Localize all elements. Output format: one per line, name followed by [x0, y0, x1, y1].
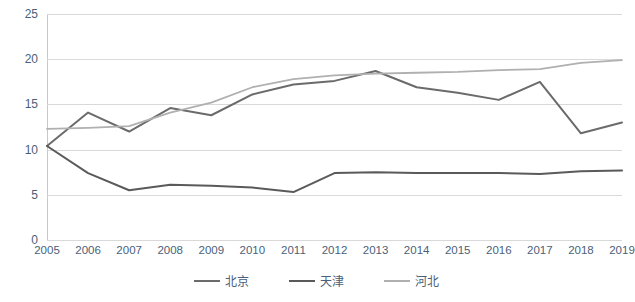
y-axis-tick-label: 0: [0, 233, 38, 247]
x-axis-tick-label: 2006: [75, 244, 101, 256]
x-axis-tick-label: 2017: [527, 244, 553, 256]
legend-item-1: 天津: [289, 272, 344, 289]
x-axis-tick-label: 2015: [445, 244, 471, 256]
x-axis-tick-label: 2019: [609, 244, 635, 256]
series-line: [47, 146, 622, 192]
x-axis-tick-label: 2005: [34, 244, 60, 256]
plot-area: [47, 14, 622, 240]
legend-item-2: 河北: [384, 272, 439, 289]
x-axis-tick-label: 2010: [240, 244, 266, 256]
legend-swatch-line-icon: [384, 280, 410, 282]
x-axis-tick-label: 2018: [568, 244, 594, 256]
legend-label: 天津: [320, 272, 344, 289]
y-axis-tick-label: 20: [0, 52, 38, 66]
x-axis-tick-label: 2009: [198, 244, 224, 256]
x-axis-tick-label: 2008: [157, 244, 183, 256]
series-line: [47, 71, 622, 146]
y-axis-tick-label: 5: [0, 188, 38, 202]
y-axis-tick-label: 10: [0, 143, 38, 157]
x-axis-tick-label: 2007: [116, 244, 142, 256]
x-axis-tick-label: 2016: [486, 244, 512, 256]
x-axis-tick-label: 2013: [363, 244, 389, 256]
x-axis-tick-label: 2011: [281, 244, 306, 256]
x-axis-tick-label: 2012: [322, 244, 348, 256]
y-axis-tick-label: 15: [0, 97, 38, 111]
series-lines: [47, 14, 622, 240]
legend-swatch-line-icon: [194, 280, 220, 282]
gridline: [47, 240, 622, 241]
legend-label: 河北: [415, 272, 439, 289]
y-axis-tick-label: 25: [0, 7, 38, 21]
legend-item-0: 北京: [194, 272, 249, 289]
legend-label: 北京: [225, 272, 249, 289]
legend-swatch-line-icon: [289, 280, 315, 282]
x-axis-tick-label: 2014: [404, 244, 430, 256]
chart-legend: 北京 天津 河北: [0, 272, 632, 289]
series-line: [47, 60, 622, 129]
